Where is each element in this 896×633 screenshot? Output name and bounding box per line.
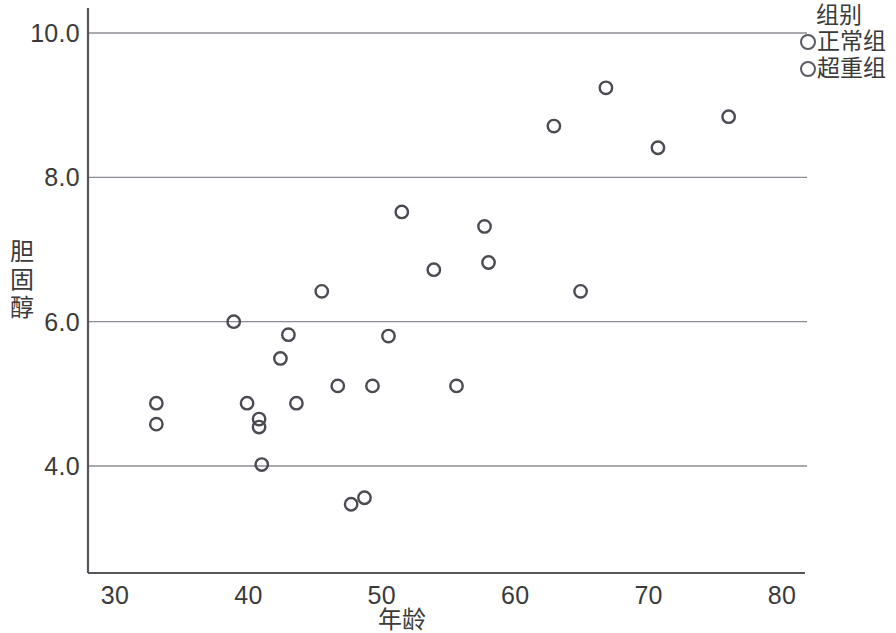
- y-tick-label: 8.0: [6, 163, 80, 192]
- legend-entries: 正常组超重组: [800, 28, 896, 82]
- data-point: [396, 206, 408, 218]
- data-point: [652, 142, 664, 154]
- scatter-chart: 4.06.08.010.0 304050607080 胆 固 醇 年龄 组别 正…: [0, 0, 896, 633]
- x-axis-title: 年龄: [0, 600, 896, 633]
- data-point: [282, 328, 294, 340]
- plot-canvas: [0, 0, 896, 633]
- legend-title: 组别: [800, 2, 896, 28]
- data-point-group: [150, 82, 735, 511]
- data-point: [600, 82, 612, 94]
- data-point: [548, 120, 560, 132]
- data-point: [274, 352, 286, 364]
- y-axis-title: 胆 固 醇: [6, 238, 38, 322]
- data-point: [428, 264, 440, 276]
- data-point: [332, 380, 344, 392]
- gridlines: [88, 33, 807, 466]
- legend-item-2[interactable]: 超重组: [800, 55, 896, 82]
- data-point: [256, 458, 268, 470]
- x-axis-title-text: 年龄: [378, 600, 426, 633]
- data-point: [382, 330, 394, 342]
- axis-lines: [88, 8, 805, 573]
- legend-item-1[interactable]: 正常组: [800, 28, 896, 55]
- data-point: [482, 256, 494, 268]
- data-point: [478, 220, 490, 232]
- y-axis-title-char-1: 胆: [6, 238, 38, 266]
- data-point: [241, 397, 253, 409]
- data-point: [150, 397, 162, 409]
- data-point: [722, 111, 734, 123]
- legend-marker-circle-icon: [800, 34, 816, 50]
- data-point: [290, 397, 302, 409]
- data-point: [358, 492, 370, 504]
- data-point: [150, 418, 162, 430]
- y-axis-title-char-2: 固: [6, 266, 38, 294]
- data-point: [574, 285, 586, 297]
- data-point: [366, 380, 378, 392]
- legend: 组别 正常组超重组: [800, 2, 896, 82]
- legend-marker-circle-icon: [800, 61, 816, 77]
- data-point: [253, 421, 265, 433]
- y-tick-label: 10.0: [6, 19, 80, 48]
- data-point: [345, 498, 357, 510]
- data-point: [450, 380, 462, 392]
- y-tick-label: 4.0: [6, 452, 80, 481]
- y-axis-title-char-3: 醇: [6, 294, 38, 322]
- legend-item-label: 超重组: [817, 56, 886, 81]
- legend-item-label: 正常组: [817, 29, 886, 54]
- data-point: [316, 285, 328, 297]
